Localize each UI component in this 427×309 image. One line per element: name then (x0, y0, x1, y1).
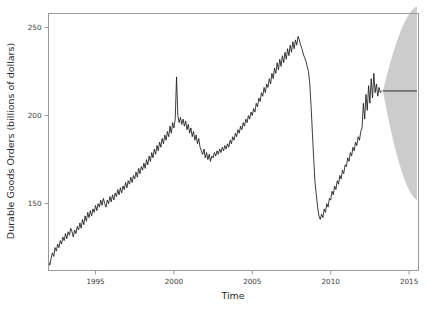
chart-canvas: 150200250 19952000200520102015 Time Dura… (0, 0, 427, 309)
x-tick-label: 2010 (322, 277, 341, 286)
y-axis-title: Durable Goods Orders (billions of dollar… (5, 43, 16, 239)
x-tick-label: 2015 (400, 277, 418, 286)
x-tick-label: 2005 (243, 277, 261, 286)
y-tick-label: 200 (28, 111, 42, 120)
y-tick-label: 150 (28, 199, 42, 208)
x-tick-label: 1995 (86, 277, 104, 286)
chart-background (0, 0, 427, 309)
y-tick-label: 250 (28, 23, 42, 32)
forecast-chart: 150200250 19952000200520102015 Time Dura… (0, 0, 427, 309)
x-tick-label: 2000 (165, 277, 184, 286)
x-axis-title: Time (220, 290, 244, 301)
